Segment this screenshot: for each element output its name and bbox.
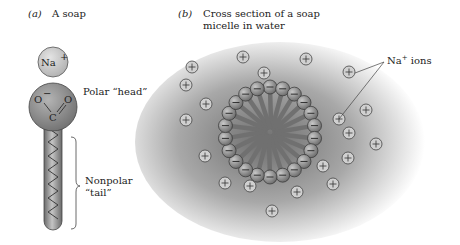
tail-label-line1: Nonpolar <box>85 175 133 186</box>
panel-a: (a) A soap O − O C Na + Polar “head” Non… <box>28 8 147 230</box>
head-carbon: C <box>49 112 57 123</box>
tail-label-line2: “tail” <box>85 187 112 198</box>
panel-b: (b) Cross section of a soap micelle in w… <box>135 8 432 242</box>
panel-b-tag: (b) <box>178 8 192 19</box>
panel-b-title-line1: Cross section of a soap <box>203 8 320 19</box>
head-oxygen-right: O <box>64 94 72 105</box>
sodium-ion-charge: + <box>60 51 68 62</box>
tail-brace <box>71 137 80 229</box>
panel-a-tag: (a) <box>28 8 42 19</box>
sodium-ion-label: Na <box>41 57 56 68</box>
panel-b-title-line2: micelle in water <box>203 20 285 31</box>
polar-head <box>29 83 77 131</box>
soap-micelle-diagram: (a) A soap O − O C Na + Polar “head” Non… <box>0 0 460 245</box>
panel-a-title: A soap <box>51 8 86 19</box>
head-oxygen-left: O <box>34 94 42 105</box>
polar-head-label: Polar “head” <box>83 86 147 97</box>
head-negative-charge: − <box>43 88 51 99</box>
ion-label: Na+ ions <box>387 54 432 66</box>
